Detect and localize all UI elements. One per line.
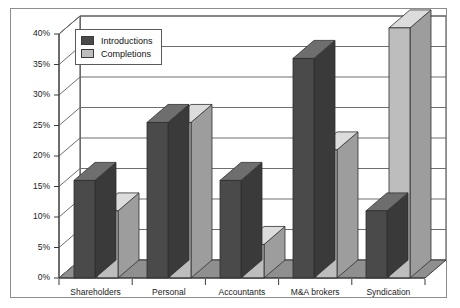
- bar-introductions: [366, 193, 408, 278]
- bar-front-face: [147, 122, 168, 278]
- y-axis-label: 5%: [11, 242, 50, 252]
- y-axis-label: 25%: [11, 120, 50, 130]
- x-axis-label-accountants: Accountants: [205, 287, 278, 297]
- legend-swatch-icon: [81, 49, 94, 58]
- y-axis-label: 0%: [11, 272, 50, 282]
- y-axis-label: 30%: [11, 89, 50, 99]
- y-axis-label: 10%: [11, 211, 50, 221]
- legend-item-completions[interactable]: Completions: [81, 47, 153, 60]
- y-axis-label: 20%: [11, 150, 50, 160]
- bar-introductions: [147, 104, 189, 278]
- legend-label: Introductions: [101, 36, 153, 46]
- bar-side-face: [410, 10, 431, 278]
- legend-swatch-icon: [81, 36, 94, 45]
- y-axis-label: 15%: [11, 181, 50, 191]
- bar-introductions: [220, 162, 262, 278]
- bar-front-face: [74, 180, 95, 278]
- x-axis-label-shareholders: Shareholders: [59, 287, 132, 297]
- legend-item-introductions[interactable]: Introductions: [81, 34, 153, 47]
- chart-frame: 0%5%10%15%20%25%30%35%40% ShareholdersPe…: [10, 8, 447, 298]
- bar-side-face: [337, 132, 358, 278]
- bar-side-face: [241, 162, 262, 278]
- bar-front-face: [366, 211, 387, 278]
- x-axis-label-syndication: Syndication: [352, 287, 425, 297]
- x-axis-label-personal: Personal: [132, 287, 205, 297]
- bar-introductions: [293, 40, 335, 278]
- bar-side-face: [168, 104, 189, 278]
- bar-front-face: [220, 180, 241, 278]
- y-axis-label: 35%: [11, 59, 50, 69]
- legend-label: Completions: [101, 49, 151, 59]
- bar-group-personal: [147, 104, 212, 278]
- bar-side-face: [191, 104, 212, 278]
- bar-side-face: [314, 40, 335, 278]
- bar-side-face: [95, 162, 116, 278]
- y-axis-label: 40%: [11, 28, 50, 38]
- chart-legend: IntroductionsCompletions: [75, 29, 162, 65]
- x-axis-label-m-a-brokers: M&A brokers: [279, 287, 352, 297]
- bar-front-face: [293, 58, 314, 278]
- chart-container: 0%5%10%15%20%25%30%35%40% ShareholdersPe…: [0, 0, 460, 308]
- bar-introductions: [74, 162, 116, 278]
